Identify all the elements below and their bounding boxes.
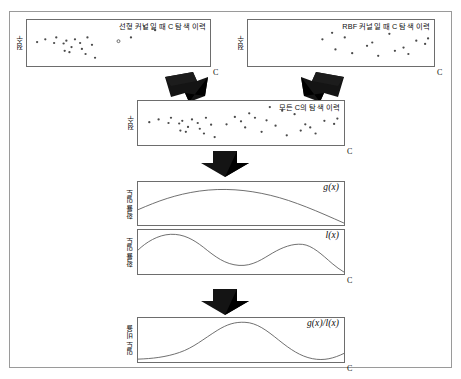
panel-g-density: g(x) — [137, 181, 345, 226]
figure-root: 선형 커널일 때 C 탐색 이력 — [0, 0, 461, 379]
arrow-all-to-g — [199, 150, 251, 178]
panel-rbf-kernel-xlabel: C — [437, 68, 442, 77]
panel-all-c-xlabel: C — [347, 147, 352, 156]
panel-l-density-ylabel: 확률 밀도 — [127, 234, 136, 269]
scatter-rbf-kernel — [248, 20, 434, 66]
curve-g-density — [138, 182, 344, 225]
panel-rbf-kernel-ylabel: 점수 — [238, 30, 246, 56]
panel-l-density: l(x) — [137, 229, 345, 275]
curve-ratio — [138, 318, 344, 362]
panel-all-c-ylabel: 점수 — [128, 110, 136, 136]
panel-ratio-ylabel: 밀도 비율 — [127, 322, 136, 357]
arrow-l-to-ratio — [199, 288, 251, 316]
curve-l-density — [138, 230, 344, 274]
panel-g-density-ylabel: 확률 밀도 — [127, 186, 136, 221]
scatter-linear-kernel — [27, 20, 210, 66]
panel-ratio-xlabel: C — [347, 364, 352, 373]
panel-ratio: g(x)/l(x) — [137, 317, 345, 363]
panel-linear-kernel-ylabel: 점수 — [17, 30, 25, 56]
panel-l-density-xlabel: C — [347, 276, 352, 285]
panel-linear-kernel: 선형 커널일 때 C 탐색 이력 — [26, 19, 211, 67]
panel-all-c: 모든 C의 탐색 이력 — [137, 100, 345, 146]
scatter-all-c — [138, 101, 344, 145]
panel-rbf-kernel: RBF 커널일 때 C 탐색 이력 — [247, 19, 435, 67]
